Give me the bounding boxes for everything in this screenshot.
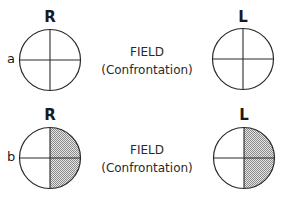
row-label-b: b [7,149,15,164]
caption-b-subtitle: (Confrontation) [92,159,202,177]
caption-a-subtitle: (Confrontation) [92,61,202,79]
field-circle-a-right-eye [20,30,81,91]
eye-label-a-left: L [238,8,248,26]
eye-label-b-left: L [239,106,249,124]
eye-label-a-right: R [44,8,56,26]
eye-label-b-right: R [44,106,56,124]
field-circle-b-right-eye [20,128,81,189]
caption-a: FIELD (Confrontation) [92,43,202,79]
row-label-a: a [7,51,15,66]
caption-b: FIELD (Confrontation) [92,141,202,177]
field-circle-b-left-eye [214,128,275,189]
caption-a-title: FIELD [92,43,202,61]
caption-b-title: FIELD [92,141,202,159]
field-circle-a-left-eye [213,29,274,90]
